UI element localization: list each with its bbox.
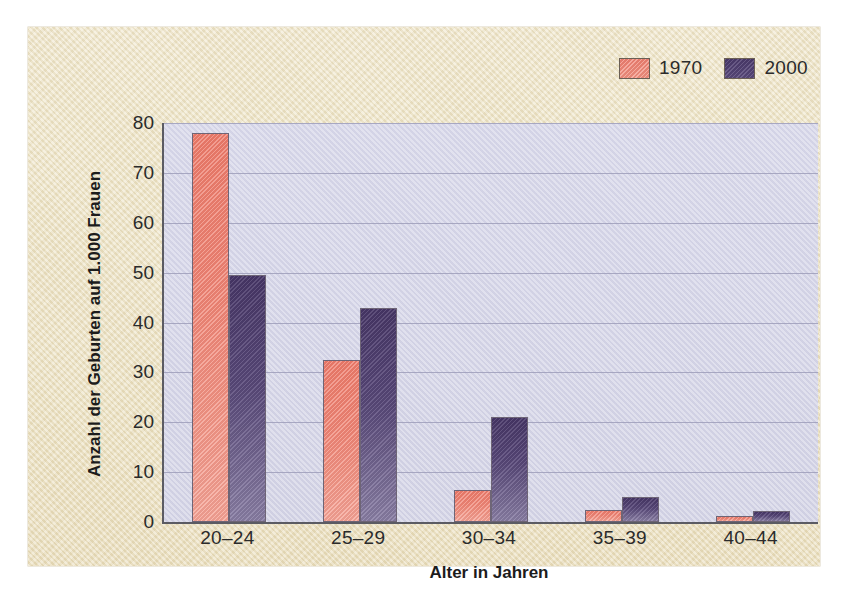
bar-2000-35–39[interactable] <box>622 497 659 522</box>
bar-2000-40–44[interactable] <box>753 511 790 522</box>
y-tick-label: 10 <box>110 461 154 483</box>
legend-label-2000: 2000 <box>764 57 807 79</box>
bar-2000-20–24[interactable] <box>229 275 266 522</box>
y-tick-label: 20 <box>110 411 154 433</box>
bar-group <box>323 123 397 522</box>
legend-label-1970: 1970 <box>659 57 702 79</box>
bar-1970-30–34[interactable] <box>454 490 491 522</box>
y-tick-label: 30 <box>110 361 154 383</box>
y-axis-title: Anzahl der Geburten auf 1.000 Frauen <box>82 109 108 539</box>
bars-layer <box>164 123 818 522</box>
bar-1970-25–29[interactable] <box>323 360 360 522</box>
plot-area <box>162 123 818 524</box>
figure-panel: 1970 2000 Anzahl der Geburten auf 1.000 … <box>28 27 820 566</box>
bar-2000-30–34[interactable] <box>491 417 528 522</box>
y-axis-ticks: 01020304050607080 <box>106 123 154 522</box>
x-axis-ticks: 20–2425–2930–3435–3940–44 <box>162 527 816 555</box>
x-tick-label: 35–39 <box>560 527 680 549</box>
bar-group <box>585 123 659 522</box>
bar-group <box>192 123 266 522</box>
legend-entry-2000: 2000 <box>724 57 807 79</box>
bar-1970-20–24[interactable] <box>192 133 229 522</box>
x-tick-label: 20–24 <box>167 527 287 549</box>
legend-swatch-2000 <box>724 58 755 79</box>
bar-group <box>716 123 790 522</box>
y-tick-label: 60 <box>110 212 154 234</box>
legend-entry-1970: 1970 <box>619 57 702 79</box>
chart-legend: 1970 2000 <box>619 57 808 79</box>
x-tick-label: 40–44 <box>691 527 811 549</box>
bar-1970-40–44[interactable] <box>716 516 753 522</box>
bar-1970-35–39[interactable] <box>585 510 622 522</box>
y-tick-label: 50 <box>110 262 154 284</box>
x-axis-title: Alter in Jahren <box>162 563 816 583</box>
y-tick-label: 80 <box>110 112 154 134</box>
y-tick-label: 70 <box>110 162 154 184</box>
bar-group <box>454 123 528 522</box>
x-tick-label: 25–29 <box>298 527 418 549</box>
y-tick-label: 40 <box>110 312 154 334</box>
chart-figure: 1970 2000 Anzahl der Geburten auf 1.000 … <box>0 0 847 594</box>
legend-swatch-1970 <box>619 58 650 79</box>
bar-2000-25–29[interactable] <box>360 308 397 522</box>
x-tick-label: 30–34 <box>429 527 549 549</box>
y-tick-label: 0 <box>110 511 154 533</box>
